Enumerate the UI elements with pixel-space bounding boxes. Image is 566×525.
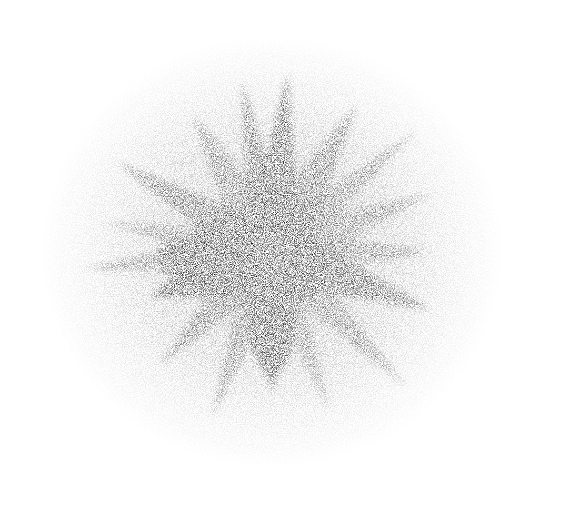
spikes-group xyxy=(42,37,502,467)
starburst-image xyxy=(0,0,566,525)
starburst-graphic xyxy=(0,0,566,525)
bottom-lobe xyxy=(250,297,294,373)
